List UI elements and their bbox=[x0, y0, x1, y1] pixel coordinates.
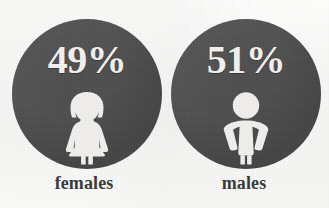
female-figure-icon bbox=[12, 91, 162, 165]
males-percent-label: 51% bbox=[171, 40, 321, 80]
gender-split-infographic: 49% bbox=[0, 0, 329, 208]
segment-females: 49% bbox=[4, 0, 164, 208]
segment-males: 51% males bbox=[162, 0, 326, 208]
females-circle: 49% bbox=[12, 19, 162, 169]
males-caption: males bbox=[162, 172, 326, 194]
males-circle: 51% bbox=[171, 19, 321, 169]
male-figure-icon bbox=[171, 91, 321, 165]
females-percent-label: 49% bbox=[12, 40, 162, 80]
females-caption: females bbox=[4, 172, 164, 194]
